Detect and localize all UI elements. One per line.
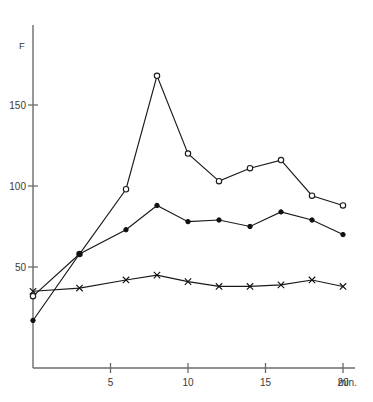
data-point-marker — [154, 73, 159, 78]
data-point-marker — [340, 203, 345, 208]
x-tick-label-15: 15 — [260, 377, 272, 388]
chart-container: 50100150 5101520 F min. — [0, 0, 373, 402]
data-point-marker — [186, 219, 190, 223]
series-path — [33, 76, 343, 296]
x-axis-unit-label: min. — [338, 377, 357, 388]
series-path — [33, 275, 343, 291]
data-point-marker — [155, 203, 159, 207]
y-tick-label-100: 100 — [9, 181, 26, 192]
series-cross-series — [30, 272, 346, 295]
data-point-marker — [279, 210, 283, 214]
data-point-marker — [217, 218, 221, 222]
series-open-circle-series — [30, 73, 345, 299]
data-point-marker — [248, 224, 252, 228]
data-point-marker — [278, 157, 283, 162]
series-layer — [30, 73, 346, 323]
data-point-marker — [124, 228, 128, 232]
data-point-marker — [310, 218, 314, 222]
x-tick-label-5: 5 — [108, 377, 114, 388]
y-tick-label-150: 150 — [9, 100, 26, 111]
data-point-marker — [31, 318, 35, 322]
data-point-marker — [216, 178, 221, 183]
data-point-marker — [185, 151, 190, 156]
data-point-marker — [123, 187, 128, 192]
line-chart: 50100150 5101520 F min. — [0, 0, 373, 402]
data-point-marker — [341, 232, 345, 236]
series-filled-circle-series — [31, 203, 345, 322]
data-point-marker — [30, 293, 35, 298]
data-point-marker — [77, 252, 81, 256]
data-point-marker — [247, 165, 252, 170]
y-axis-title: F — [19, 40, 25, 51]
x-tick-label-10: 10 — [182, 377, 194, 388]
y-tick-label-50: 50 — [15, 262, 27, 273]
x-tick-group: 5101520 — [108, 363, 349, 388]
data-point-marker — [309, 193, 314, 198]
